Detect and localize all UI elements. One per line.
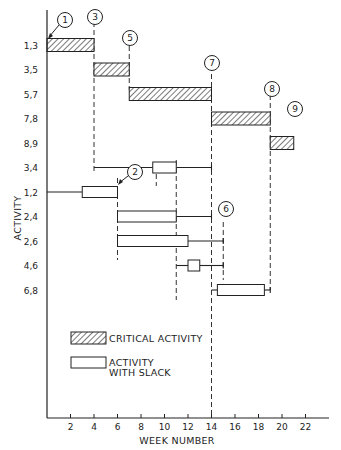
slack-bar <box>153 162 177 173</box>
activity-label: 6,8 <box>24 286 39 296</box>
activity-label: 7,8 <box>24 114 39 124</box>
x-axis-title: WEEK NUMBER <box>139 435 214 446</box>
node-label: 8 <box>269 84 275 94</box>
activity-row-1-3: 1,3 <box>24 39 94 52</box>
x-tick-label: 2 <box>68 422 74 432</box>
critical-bar <box>94 63 129 76</box>
event-node-6: 6 <box>219 202 234 217</box>
x-tick-label: 16 <box>229 422 241 432</box>
node-label: 1 <box>62 15 68 25</box>
legend-critical-label: CRITICAL ACTIVITY <box>109 333 203 344</box>
activity-row-2-4: 2,4 <box>24 211 212 222</box>
legend-critical-swatch <box>71 332 106 344</box>
activity-label: 2,4 <box>24 212 39 222</box>
slack-bar <box>188 260 200 271</box>
critical-bar <box>270 137 294 150</box>
node-label: 9 <box>292 104 298 114</box>
slack-bar <box>82 187 117 198</box>
node-label: 7 <box>209 58 215 68</box>
event-node-8: 8 <box>265 82 280 97</box>
activity-row-3-4: 3,4 <box>24 162 212 173</box>
event-node-2: 2 <box>128 165 143 180</box>
activity-bars: 1,33,55,77,88,93,41,22,42,64,66,8 <box>24 39 294 296</box>
activity-row-2-6: 2,6 <box>24 236 224 247</box>
slack-bar <box>118 211 177 222</box>
critical-bar <box>212 112 271 125</box>
legend: CRITICAL ACTIVITYACTIVITYWITH SLACK <box>71 332 203 378</box>
activity-row-4-6: 4,6 <box>24 260 224 271</box>
critical-bar <box>129 88 211 101</box>
activity-row-1-2: 1,2 <box>24 187 118 198</box>
activity-row-5-7: 5,7 <box>24 88 212 101</box>
activity-label: 1,3 <box>24 41 38 51</box>
event-node-5: 5 <box>123 31 138 46</box>
event-node-7: 7 <box>205 56 220 71</box>
legend-slack-label-line2: WITH SLACK <box>109 367 171 378</box>
x-tick-label: 14 <box>206 422 218 432</box>
activity-label: 1,2 <box>24 188 38 198</box>
x-tick-label: 12 <box>182 422 193 432</box>
activity-label: 2,6 <box>24 237 39 247</box>
legend-slack-swatch <box>71 357 106 368</box>
node-label: 6 <box>223 204 229 214</box>
x-tick-label: 18 <box>253 422 265 432</box>
node-label: 3 <box>92 12 98 22</box>
x-tick-label: 10 <box>159 422 171 432</box>
activity-row-7-8: 7,8 <box>24 112 271 125</box>
x-tick-label: 8 <box>138 422 144 432</box>
activity-label: 5,7 <box>24 90 38 100</box>
node-label: 5 <box>127 33 133 43</box>
activity-label: 8,9 <box>24 139 39 149</box>
x-tick-label: 4 <box>91 422 97 432</box>
x-tick-label: 22 <box>300 422 311 432</box>
activity-label: 4,6 <box>24 261 39 271</box>
y-axis-title: ACTIVITY <box>12 196 23 241</box>
activity-label: 3,5 <box>24 65 38 75</box>
node-label: 2 <box>132 167 138 177</box>
event-node-3: 3 <box>88 10 103 25</box>
activity-row-8-9: 8,9 <box>24 137 294 150</box>
activity-row-3-5: 3,5 <box>24 63 130 76</box>
critical-bar <box>47 39 94 52</box>
x-tick-label: 6 <box>115 422 121 432</box>
activity-row-6-8: 6,8 <box>24 285 271 296</box>
gantt-chart: 1,33,55,77,88,93,41,22,42,64,66,8 123567… <box>0 0 341 450</box>
activity-label: 3,4 <box>24 163 39 173</box>
x-tick-label: 20 <box>276 422 288 432</box>
event-node-9: 9 <box>288 102 303 117</box>
slack-bar <box>118 236 189 247</box>
axes: 246810121416182022WEEK NUMBERACTIVITY <box>12 10 329 446</box>
event-node-1: 1 <box>58 13 73 28</box>
slack-bar <box>217 285 264 296</box>
